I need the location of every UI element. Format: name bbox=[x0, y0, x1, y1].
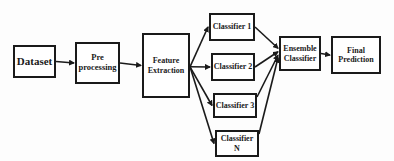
final-prediction-label-line1: Final bbox=[347, 46, 365, 55]
classifier-3-label: Classifier 3 bbox=[216, 101, 254, 110]
ensemble-label-line1: Ensemble bbox=[283, 44, 316, 53]
arrow-dataset-to-preprocessing bbox=[56, 62, 74, 64]
arrow-preprocessing-to-feature-extraction bbox=[120, 63, 141, 66]
feature-extraction-label-line1: Feature bbox=[153, 56, 180, 65]
preprocessing-label-line2: processing bbox=[78, 63, 116, 73]
feature-extraction-box: Feature Extraction bbox=[142, 33, 190, 98]
preprocessing-box: Pre processing bbox=[75, 42, 120, 84]
classifier-2-box: Classifier 2 bbox=[211, 53, 255, 81]
dataset-box: Dataset bbox=[13, 45, 56, 78]
final-prediction-box: Final Prediction bbox=[331, 36, 381, 74]
arrow-feature-extraction-to-classifier-1 bbox=[190, 27, 208, 67]
ensemble-classifier-box: Ensemble Classifier bbox=[279, 36, 321, 71]
classifier-1-label: Classifier 1 bbox=[213, 22, 251, 31]
arrow-classifier-2-to-ensemble bbox=[255, 52, 278, 67]
final-prediction-label-line2: Prediction bbox=[338, 55, 373, 64]
classifier-3-box: Classifier 3 bbox=[213, 93, 257, 118]
diagram-canvas: Dataset Pre processing Feature Extractio… bbox=[0, 0, 394, 161]
edges-layer bbox=[0, 0, 394, 161]
classifier-2-label: Classifier 2 bbox=[214, 62, 252, 71]
classifier-1-box: Classifier 1 bbox=[209, 13, 255, 41]
classifier-n-label: Classifier N bbox=[217, 134, 257, 152]
arrow-classifier-n-to-ensemble bbox=[259, 58, 278, 134]
classifier-n-box: Classifier N bbox=[215, 130, 259, 157]
dataset-label: Dataset bbox=[17, 55, 52, 68]
arrow-classifier-3-to-ensemble bbox=[257, 55, 278, 97]
feature-extraction-label-line2: Extraction bbox=[148, 66, 184, 75]
arrow-classifier-1-to-ensemble bbox=[255, 27, 278, 48]
ensemble-label-line2: Classifier bbox=[284, 54, 316, 63]
arrow-ensemble-to-final-prediction bbox=[321, 54, 330, 56]
